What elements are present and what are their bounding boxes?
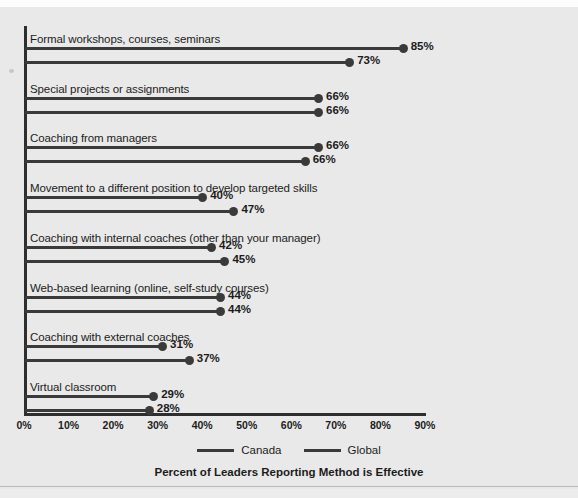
lollipop-dot-global [185, 356, 194, 365]
lollipop-dot-global [216, 307, 225, 316]
lollipop-dot-global [345, 58, 354, 67]
legend-label-global: Global [348, 444, 381, 456]
value-label: 66% [326, 104, 349, 116]
x-tick-label: 90% [414, 419, 435, 431]
chart-legend: Canada Global [0, 444, 578, 456]
lollipop-line-canada [25, 395, 153, 398]
value-label: 66% [313, 153, 336, 165]
lollipop-line-canada [25, 345, 162, 348]
scan-bottom-edge [0, 489, 578, 498]
lollipop-dot-canada [149, 392, 158, 401]
lollipop-line-canada [25, 246, 211, 249]
lollipop-dot-canada [207, 243, 216, 252]
category-label: Coaching with internal coaches (other th… [30, 232, 320, 244]
x-tick-label: 30% [147, 419, 168, 431]
x-tick-label: 80% [370, 419, 391, 431]
y-axis-line [24, 26, 27, 415]
legend-swatch-canada [197, 449, 234, 452]
legend-swatch-global [304, 449, 341, 452]
category-label: Coaching from managers [30, 132, 157, 144]
lollipop-dot-global [229, 207, 238, 216]
value-label: 29% [161, 388, 184, 400]
lollipop-dot-global [314, 108, 323, 117]
x-tick-label: 70% [325, 419, 346, 431]
lollipop-line-global [25, 359, 189, 362]
value-label: 31% [170, 338, 193, 350]
lollipop-dot-canada [198, 193, 207, 202]
category-label: Special projects or assignments [30, 83, 189, 95]
lollipop-dot-canada [216, 293, 225, 302]
page-rule [0, 486, 578, 487]
lollipop-dot-canada [314, 94, 323, 103]
category-label: Virtual classroom [30, 381, 116, 393]
legend-item-global: Global [304, 444, 381, 456]
lollipop-chart-plot-area: Formal workshops, courses, seminars85%73… [0, 0, 578, 498]
value-label: 28% [157, 402, 180, 414]
legend-item-canada: Canada [197, 444, 281, 456]
value-label: 73% [357, 54, 380, 66]
value-label: 45% [232, 253, 255, 265]
lollipop-line-global [25, 111, 318, 114]
x-tick-label: 40% [192, 419, 213, 431]
lollipop-line-global [25, 210, 233, 213]
value-label: 44% [228, 303, 251, 315]
category-label: Formal workshops, courses, seminars [30, 33, 220, 45]
x-tick-label: 20% [103, 419, 124, 431]
legend-label-canada: Canada [241, 444, 281, 456]
value-label: 66% [326, 139, 349, 151]
value-label: 47% [241, 203, 264, 215]
value-label: 44% [228, 289, 251, 301]
lollipop-line-canada [25, 196, 202, 199]
lollipop-line-global [25, 260, 224, 263]
lollipop-line-canada [25, 296, 220, 299]
lollipop-line-canada [25, 97, 318, 100]
value-label: 37% [197, 352, 220, 364]
lollipop-line-canada [25, 47, 403, 50]
lollipop-dot-canada [314, 143, 323, 152]
lollipop-line-canada [25, 146, 318, 149]
x-tick-label: 60% [281, 419, 302, 431]
x-axis-title: Percent of Leaders Reporting Method is E… [0, 466, 578, 478]
chart-page: Formal workshops, courses, seminars85%73… [0, 0, 578, 498]
lollipop-dot-global [220, 257, 229, 266]
lollipop-dot-canada [399, 44, 408, 53]
value-label: 85% [411, 40, 434, 52]
lollipop-line-global [25, 409, 149, 412]
lollipop-line-global [25, 160, 305, 163]
lollipop-line-global [25, 310, 220, 313]
lollipop-line-global [25, 61, 349, 64]
lollipop-dot-global [145, 406, 154, 415]
category-label: Movement to a different position to deve… [30, 182, 317, 194]
x-tick-label: 0% [16, 419, 31, 431]
x-axis-line [24, 413, 426, 416]
x-tick-label: 50% [236, 419, 257, 431]
x-tick-label: 10% [58, 419, 79, 431]
lollipop-dot-canada [158, 342, 167, 351]
value-label: 40% [210, 189, 233, 201]
category-label: Coaching with external coaches [30, 331, 189, 343]
value-label: 66% [326, 90, 349, 102]
lollipop-dot-global [301, 157, 310, 166]
value-label: 42% [219, 239, 242, 251]
